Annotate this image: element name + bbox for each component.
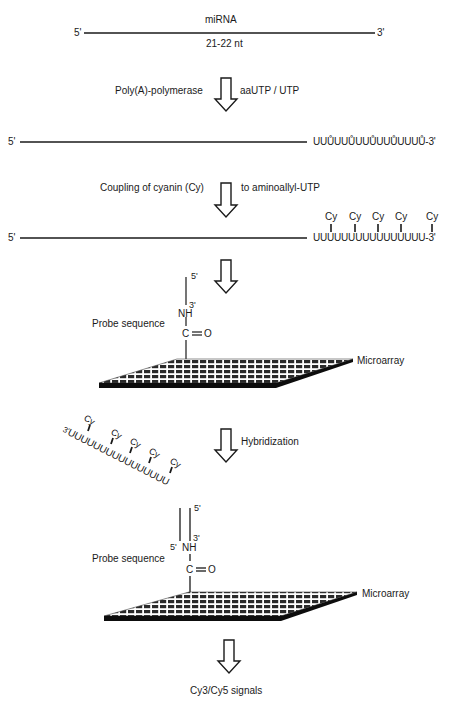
five-prime-label: 5' bbox=[8, 232, 15, 244]
polyu-tail-labeled: UUUUUUUUUUUUUUUU-3' bbox=[313, 232, 436, 244]
substrate-label: aaUTP / UTP bbox=[240, 85, 299, 97]
hybridization-label: Hybridization bbox=[241, 436, 299, 448]
diagram-canvas bbox=[0, 0, 461, 708]
probe-five-prime-label: 5' bbox=[191, 270, 198, 282]
cy-dye-label: Cy bbox=[349, 211, 361, 223]
probe-sequence-label: Probe sequence bbox=[92, 318, 165, 330]
microarray-label: Microarray bbox=[362, 588, 409, 600]
arrow-down-icon bbox=[215, 260, 237, 293]
enzyme-label: Poly(A)-polymerase bbox=[115, 85, 203, 97]
arrow-down-icon bbox=[215, 78, 237, 111]
five-prime-label: 5' bbox=[8, 136, 15, 148]
tail-sequence: UUUUUUUUUUUUUUUU bbox=[313, 232, 425, 243]
dye-linkers bbox=[331, 224, 432, 232]
carbonyl-o-label: O bbox=[208, 564, 216, 576]
cy-dye-label: Cy bbox=[395, 211, 407, 223]
probe-sequence-label: Probe sequence bbox=[92, 553, 165, 565]
microarray-chip bbox=[104, 592, 357, 621]
mirna-label: miRNA bbox=[205, 14, 237, 26]
three-prime-label: 3' bbox=[377, 27, 384, 39]
cy-dye-label: Cy bbox=[426, 211, 438, 223]
carbonyl-c-label: C bbox=[182, 328, 189, 340]
coupling-label: Coupling of cyanin (Cy) bbox=[100, 182, 204, 194]
five-prime-label: 5' bbox=[74, 27, 81, 39]
cy-dye-label: Cy bbox=[372, 211, 384, 223]
signals-label: Cy3/Cy5 signals bbox=[190, 685, 262, 697]
amine-label: NH bbox=[182, 542, 196, 554]
cy-dye-label: Cy bbox=[325, 211, 337, 223]
microarray-chip bbox=[99, 359, 353, 388]
three-prime-label: -3' bbox=[425, 232, 435, 243]
arrow-down-icon bbox=[215, 183, 237, 217]
microarray-label: Microarray bbox=[357, 355, 404, 367]
polyu-tail-modified: UUŮUUŮUUŮUUŮUUUŮ-3' bbox=[313, 136, 436, 148]
aminoallyl-label: to aminoallyl-UTP bbox=[241, 182, 320, 194]
carbonyl-o-label: O bbox=[204, 328, 212, 340]
strand-five-prime-label: 5' bbox=[170, 541, 177, 553]
carbonyl-c-label: C bbox=[186, 564, 193, 576]
arrow-down-icon bbox=[215, 429, 237, 462]
strand-five-prime-label: 5' bbox=[194, 502, 201, 514]
amine-label: NH bbox=[178, 308, 192, 320]
length-label: 21-22 nt bbox=[206, 38, 243, 50]
arrow-down-icon bbox=[218, 640, 240, 673]
